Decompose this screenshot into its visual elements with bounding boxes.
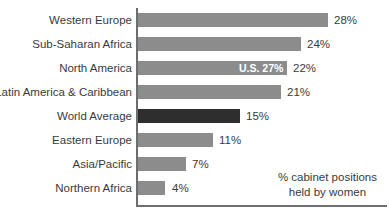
bar-value-latin-america-caribbean: 21%: [287, 80, 310, 104]
category-label-sub-saharan-africa: Sub-Saharan Africa: [32, 32, 132, 56]
annotation-us-value: U.S. 27%: [239, 61, 283, 75]
bar-row: North America U.S. 27% 22%: [0, 56, 389, 80]
caption-line-1: % cabinet positions: [278, 170, 377, 185]
bar-value-eastern-europe: 11%: [219, 128, 241, 152]
bar-sub-saharan-africa: [138, 37, 301, 51]
category-label-north-america: North America: [59, 56, 132, 80]
bar-chart: Western Europe 28% Sub-Saharan Africa 24…: [0, 0, 389, 218]
category-label-latin-america-caribbean: Latin America & Caribbean: [0, 80, 132, 104]
bar-northern-africa: [138, 181, 165, 195]
caption-line-2: held by women: [278, 185, 377, 200]
bar-row: Western Europe 28%: [0, 8, 389, 32]
category-label-northern-africa: Northern Africa: [55, 176, 132, 200]
bar-value-northern-africa: 4%: [172, 176, 189, 200]
bar-value-world-average: 15%: [246, 104, 269, 128]
chart-caption: % cabinet positions held by women: [278, 170, 377, 200]
bar-western-europe: [138, 13, 328, 27]
bar-value-sub-saharan-africa: 24%: [307, 32, 330, 56]
category-label-western-europe: Western Europe: [49, 8, 132, 32]
bar-world-average: [138, 109, 240, 123]
bar-latin-america-caribbean: [138, 85, 281, 99]
category-label-asia-pacific: Asia/Pacific: [73, 152, 132, 176]
bar-value-north-america: 22%: [293, 56, 316, 80]
bar-row: Latin America & Caribbean 21%: [0, 80, 389, 104]
bar-eastern-europe: [138, 133, 213, 147]
category-label-world-average: World Average: [57, 104, 132, 128]
bar-row: Eastern Europe 11%: [0, 128, 389, 152]
bar-row: Sub-Saharan Africa 24%: [0, 32, 389, 56]
bar-row: World Average 15%: [0, 104, 389, 128]
x-axis-baseline: [136, 205, 387, 207]
category-label-eastern-europe: Eastern Europe: [52, 128, 132, 152]
bar-value-western-europe: 28%: [334, 8, 357, 32]
bar-value-asia-pacific: 7%: [192, 152, 209, 176]
bar-asia-pacific: [138, 157, 186, 171]
